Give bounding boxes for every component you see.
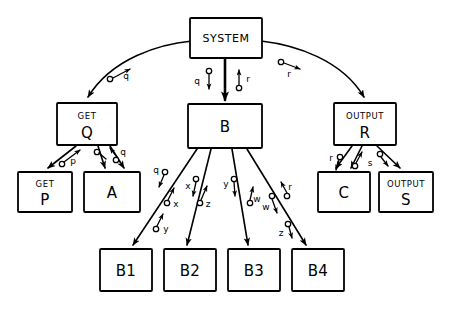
node-getq-label-top: GET xyxy=(78,111,97,121)
node-outputr[interactable]: OUTPUT R xyxy=(334,103,396,145)
flow-label-q-a: q xyxy=(120,147,126,157)
node-b[interactable]: B xyxy=(188,104,262,148)
dataflow-r-system-to-outputr: r xyxy=(278,59,300,78)
node-b4-label: B4 xyxy=(308,262,329,280)
connection-system-to-getq xyxy=(88,41,192,97)
node-b1[interactable]: B1 xyxy=(100,249,152,291)
node-b4[interactable]: B4 xyxy=(292,249,344,291)
dataflow-z-b-to-b4: z xyxy=(279,221,292,238)
flow-label-q-sysb: q xyxy=(194,76,200,86)
flow-label-r-b4: r xyxy=(288,182,292,192)
node-b3[interactable]: B3 xyxy=(228,249,280,291)
connection-b-to-b2 xyxy=(187,149,211,245)
flow-label-y-b3: y xyxy=(223,179,229,189)
node-b2[interactable]: B2 xyxy=(164,249,216,291)
flow-label-y-b1: y xyxy=(163,224,169,234)
flow-label-q-b1: q xyxy=(153,165,159,175)
structure-chart-diagram: q q r r p xyxy=(0,0,452,313)
flow-label-r-bsys: r xyxy=(246,74,250,84)
flow-label-x-b1: x xyxy=(173,199,179,209)
flow-label-z-b2: z xyxy=(206,199,211,209)
node-getq[interactable]: GET Q xyxy=(57,103,117,145)
flow-label-p: p xyxy=(70,156,76,166)
dataflow-y-b-to-b3: y xyxy=(223,176,236,196)
dataflow-r-b-to-system: r xyxy=(236,70,250,91)
node-outputs-label-main: S xyxy=(401,191,411,209)
node-system[interactable]: SYSTEM xyxy=(190,18,262,58)
flow-label-q-left: q xyxy=(123,71,129,81)
flow-label-z-b4: z xyxy=(279,228,284,238)
node-outputr-label-top: OUTPUT xyxy=(346,111,384,121)
node-getp-label-main: P xyxy=(40,191,49,209)
flow-label-x-b2: x xyxy=(185,181,191,191)
node-b3-label: B3 xyxy=(244,262,265,280)
node-system-label: SYSTEM xyxy=(203,32,250,45)
flow-label-r-right: r xyxy=(287,69,291,79)
diagram-canvas: q q r r p xyxy=(0,0,452,313)
dataflow-w-b3-to-b: w xyxy=(247,187,260,206)
node-outputs-label-top: OUTPUT xyxy=(387,179,425,189)
dataflow-x-b-to-b2: x xyxy=(185,176,198,196)
node-getp[interactable]: GET P xyxy=(18,172,72,212)
node-outputr-label-main: R xyxy=(360,124,371,142)
node-b-label: B xyxy=(220,118,231,136)
dataflow-q-b-to-b1: q xyxy=(153,165,168,188)
node-getq-label-main: Q xyxy=(81,124,93,142)
connection-b-to-b3 xyxy=(232,149,248,245)
dataflow-q-system-to-b: q xyxy=(194,68,212,89)
dataflow-x-b1-to-b: x xyxy=(164,188,179,209)
connection-system-to-outputr xyxy=(261,41,364,97)
dataflow-r-b4-to-b: r xyxy=(281,182,292,199)
flow-label-s: s xyxy=(368,158,373,168)
node-a[interactable]: A xyxy=(84,172,140,212)
dataflow-w-b-to-b4: w xyxy=(262,193,277,213)
flow-label-w-b3: w xyxy=(253,194,260,204)
node-c-label: C xyxy=(339,184,350,202)
node-b2-label: B2 xyxy=(180,262,201,280)
node-c[interactable]: C xyxy=(318,172,370,212)
flow-label-r-c: r xyxy=(329,153,333,163)
node-b1-label: B1 xyxy=(116,262,137,280)
dataflow-p-getp-to-getq: p xyxy=(59,150,80,167)
node-getp-label-top: GET xyxy=(36,179,55,189)
flow-label-w-b4: w xyxy=(262,202,269,212)
node-outputs[interactable]: OUTPUT S xyxy=(379,172,433,212)
dataflow-y-b1-to-b: y xyxy=(153,214,169,234)
node-a-label: A xyxy=(107,184,118,202)
